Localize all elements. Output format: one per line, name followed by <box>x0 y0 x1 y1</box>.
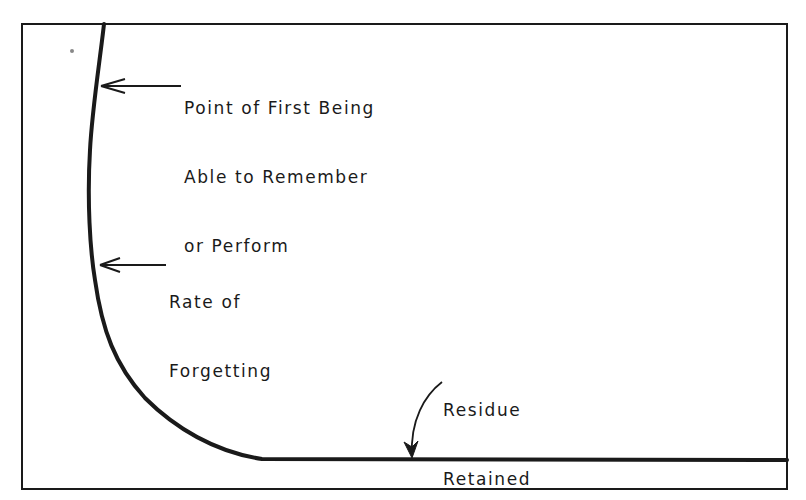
label-rate-line1: Rate of <box>169 291 272 314</box>
label-rate-line2: Forgetting <box>169 360 272 383</box>
arrow-first-remember <box>101 79 181 93</box>
label-residue-line2: Retained <box>443 468 531 491</box>
label-rate-forgetting: Rate of Forgetting <box>169 245 272 406</box>
label-residue-retained: Residue Retained <box>443 353 531 500</box>
arrow-rate-forgetting <box>100 258 166 272</box>
label-residue-line1: Residue <box>443 399 531 422</box>
diagram-frame <box>22 24 787 489</box>
label-first-line1: Point of First Being <box>184 97 375 120</box>
forgetting-curve-diagram <box>0 0 806 500</box>
stray-dot <box>70 49 74 53</box>
label-first-line2: Able to Remember <box>184 166 375 189</box>
arrow-residue-retained <box>404 382 442 458</box>
